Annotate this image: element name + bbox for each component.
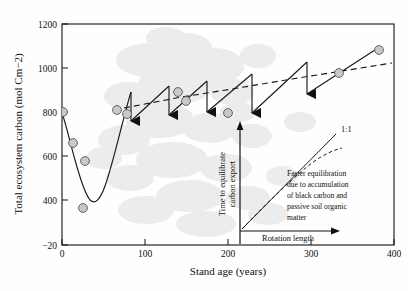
x-tick-label-300: 300	[304, 249, 319, 259]
regrowth-4	[252, 62, 307, 113]
y-axis-ticks	[62, 24, 68, 245]
y-tick-label-800: 800	[43, 108, 58, 118]
y-tick-label-bottom: −20	[42, 241, 57, 251]
inset-x-axis-arrow	[331, 228, 340, 235]
y-axis-title: Total ecosystem carbon (mol Cm−2)	[12, 53, 25, 215]
inset-x-axis-label: Rotation length	[262, 234, 315, 243]
y-tick-label-1200: 1200	[38, 20, 57, 30]
data-marker	[59, 108, 68, 117]
data-marker	[79, 204, 88, 213]
y-tick-label-400: 400	[43, 196, 58, 206]
data-marker	[69, 139, 78, 148]
y-tick-label-600: 600	[43, 152, 58, 162]
x-axis-ticks	[62, 239, 394, 245]
inset-annotation-line-5: matter	[287, 213, 307, 222]
inset-y-axis-label-line1: Time to equilibrate	[218, 152, 227, 216]
x-tick-label-400: 400	[387, 249, 402, 259]
data-marker	[113, 106, 122, 115]
x-tick-label-200: 200	[221, 249, 236, 259]
data-marker	[335, 69, 344, 78]
inset-annotation: Faster equilibration due to accumulation…	[287, 169, 349, 222]
inset-annotation-line-1: Faster equilibration	[287, 169, 346, 178]
inset-annotation-line-2: due to accumulation	[287, 180, 349, 189]
inset-annotation-line-4: passive soil organic	[287, 202, 347, 211]
x-tick-label-100: 100	[138, 249, 153, 259]
chart-svg: 1200 1000 800 600 400 −20 0 100 200 300 …	[0, 0, 408, 291]
data-marker	[224, 109, 233, 118]
y-tick-label-1000: 1000	[38, 64, 57, 74]
figure-container: 1200 1000 800 600 400 −20 0 100 200 300 …	[0, 0, 408, 291]
data-marker	[182, 97, 191, 106]
inset-annotation-line-3: of black carbon and	[287, 191, 347, 200]
data-marker	[174, 88, 183, 97]
x-tick-label-0: 0	[60, 249, 65, 259]
inset-ratio-label: 1:1	[341, 125, 352, 134]
x-axis-title: Stand age (years)	[190, 265, 267, 278]
inset-y-axis-label-line2: carbon export	[228, 160, 237, 207]
data-marker	[375, 46, 384, 55]
data-marker	[81, 157, 90, 166]
data-marker	[123, 110, 132, 119]
